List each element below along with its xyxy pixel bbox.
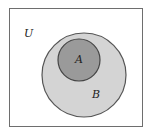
set-a-label: A (74, 53, 83, 66)
venn-diagram: U A B (0, 0, 148, 131)
set-b-label: B (91, 88, 100, 101)
universe-label: U (24, 27, 34, 40)
